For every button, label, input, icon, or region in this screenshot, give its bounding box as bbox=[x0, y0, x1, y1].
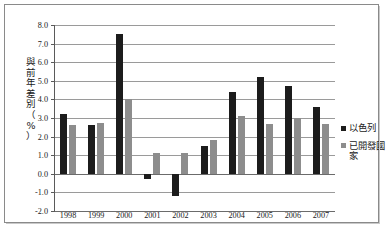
bar-category bbox=[195, 25, 223, 211]
bar bbox=[322, 124, 329, 174]
x-axis-tick-label: 2005 bbox=[257, 211, 273, 220]
bar-category bbox=[166, 25, 194, 211]
legend-swatch-icon bbox=[341, 126, 346, 131]
legend-item-label: 已開發國家 bbox=[349, 141, 387, 162]
legend-item-label: 以色列 bbox=[349, 123, 376, 134]
x-axis-tick-label: 2000 bbox=[116, 211, 132, 220]
y-axis-tick-label: 5.0 bbox=[38, 76, 48, 85]
bar bbox=[97, 123, 104, 174]
bar bbox=[116, 34, 123, 174]
y-axis-tick-label: 0.0 bbox=[38, 169, 48, 178]
bar bbox=[210, 140, 217, 173]
y-axis-tick-label: 1.0 bbox=[38, 151, 48, 160]
x-axis-tick-label: 1998 bbox=[60, 211, 76, 220]
bar bbox=[238, 116, 245, 174]
y-axis-tick-label: 8.0 bbox=[38, 21, 48, 30]
x-axis-tick-label: 2007 bbox=[313, 211, 329, 220]
bar-category bbox=[54, 25, 82, 211]
bar-category bbox=[223, 25, 251, 211]
bar bbox=[257, 77, 264, 174]
y-axis-tick-label: 3.0 bbox=[38, 114, 48, 123]
x-axis-tick-label: 2006 bbox=[285, 211, 301, 220]
y-axis-tick-label: -2.0 bbox=[35, 207, 48, 216]
legend-item[interactable]: 已開發國家 bbox=[341, 141, 387, 162]
y-axis-tick-label: 4.0 bbox=[38, 95, 48, 104]
x-axis-tick-label: 2003 bbox=[200, 211, 216, 220]
bar bbox=[201, 146, 208, 174]
y-axis-tick-label: 6.0 bbox=[38, 58, 48, 67]
bar bbox=[266, 124, 273, 174]
bar bbox=[229, 92, 236, 174]
bar bbox=[313, 107, 320, 174]
bar bbox=[153, 153, 160, 173]
bar-category bbox=[110, 25, 138, 211]
x-axis-baseline bbox=[54, 223, 335, 224]
x-axis-tick-label: 2001 bbox=[144, 211, 160, 220]
legend-item[interactable]: 以色列 bbox=[341, 123, 387, 134]
chart-legend: 以色列已開發國家 bbox=[341, 123, 387, 169]
bar bbox=[181, 153, 188, 173]
bar bbox=[88, 125, 95, 173]
x-axis-tick-label: 2002 bbox=[172, 211, 188, 220]
bar bbox=[285, 86, 292, 173]
bar-category bbox=[251, 25, 279, 211]
y-axis-tick-label: -1.0 bbox=[35, 188, 48, 197]
y-axis-tick-label: 7.0 bbox=[38, 39, 48, 48]
x-axis-tick-label: 1999 bbox=[88, 211, 104, 220]
y-axis-tick-label: 2.0 bbox=[38, 132, 48, 141]
bar bbox=[144, 174, 151, 180]
bar-category bbox=[279, 25, 307, 211]
bar bbox=[60, 114, 67, 174]
x-axis-tick-label: 2004 bbox=[228, 211, 244, 220]
bar-category bbox=[82, 25, 110, 211]
bar bbox=[172, 174, 179, 196]
plot-area: 8.07.06.05.04.03.02.01.00.0-1.0-2.0 bbox=[54, 25, 335, 211]
bar-category bbox=[138, 25, 166, 211]
legend-swatch-icon bbox=[341, 143, 346, 148]
bar-group bbox=[54, 25, 335, 211]
chart-frame: 與前年差別（%） 8.07.06.05.04.03.02.01.00.0-1.0… bbox=[4, 4, 379, 223]
bar bbox=[69, 125, 76, 173]
bar bbox=[125, 99, 132, 173]
bar bbox=[294, 118, 301, 174]
bar-category bbox=[307, 25, 335, 211]
